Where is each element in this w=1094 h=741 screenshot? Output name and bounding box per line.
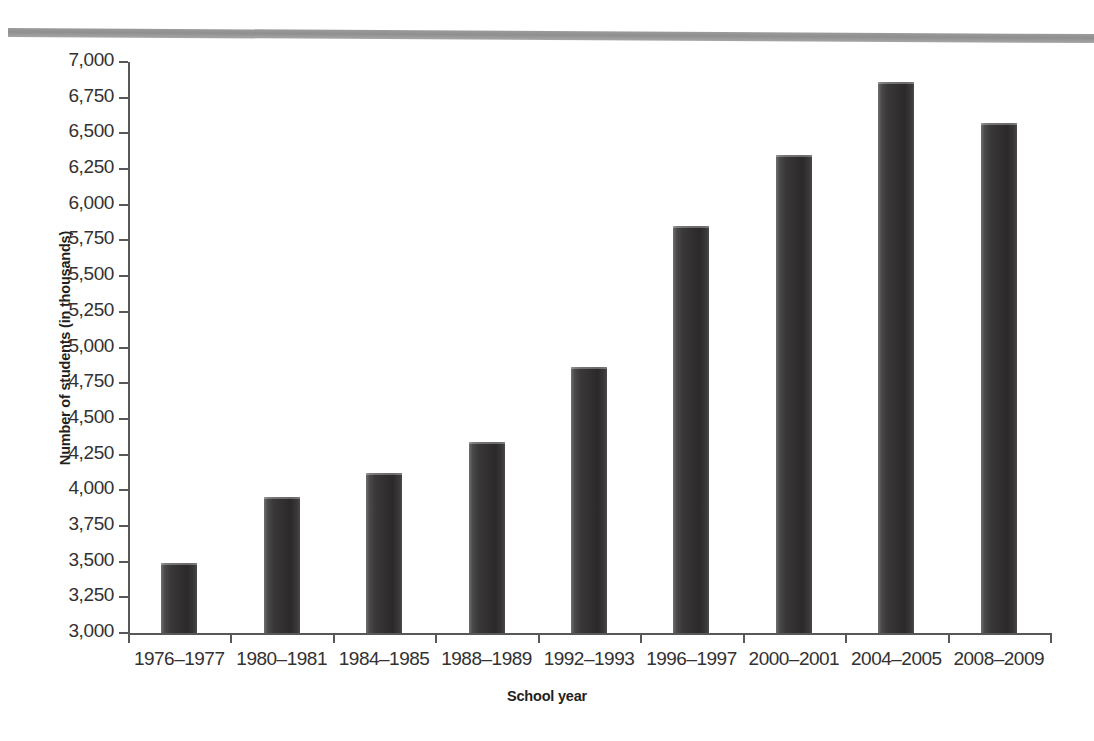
bar bbox=[571, 367, 607, 633]
y-axis-tick bbox=[119, 525, 128, 527]
x-axis-tick bbox=[845, 633, 847, 643]
y-axis-tick bbox=[119, 97, 128, 99]
x-axis-category-label: 1996–1997 bbox=[640, 648, 742, 670]
x-axis-category-label: 1988–1989 bbox=[435, 648, 537, 670]
x-axis-title: School year bbox=[0, 688, 1094, 704]
y-axis-tick-label: 3,250 bbox=[0, 584, 114, 606]
x-axis-tick bbox=[230, 633, 232, 643]
x-axis-category-label: 1976–1977 bbox=[128, 648, 230, 670]
x-axis-tick bbox=[333, 633, 335, 643]
y-axis-tick bbox=[119, 561, 128, 563]
y-axis-tick bbox=[119, 489, 128, 491]
y-axis-tick-label: 4,500 bbox=[0, 406, 114, 428]
x-axis-category-label: 1980–1981 bbox=[230, 648, 332, 670]
bar bbox=[469, 442, 505, 633]
y-axis-tick-label: 5,000 bbox=[0, 335, 114, 357]
bar bbox=[673, 226, 709, 633]
x-axis-tick bbox=[128, 633, 130, 643]
y-axis-tick bbox=[119, 632, 128, 634]
y-axis-tick bbox=[119, 347, 128, 349]
x-axis-tick bbox=[743, 633, 745, 643]
y-axis-tick-label: 6,500 bbox=[0, 120, 114, 142]
y-axis-tick-label: 5,500 bbox=[0, 263, 114, 285]
chart-figure: Number of students (in thousands) 7,0006… bbox=[0, 0, 1094, 741]
x-axis-tick bbox=[538, 633, 540, 643]
bar bbox=[161, 563, 197, 633]
y-axis-tick-label: 5,250 bbox=[0, 299, 114, 321]
bar bbox=[366, 473, 402, 633]
y-axis-tick bbox=[119, 454, 128, 456]
y-axis-tick bbox=[119, 275, 128, 277]
y-axis-tick bbox=[119, 168, 128, 170]
top-scan-rule bbox=[8, 28, 1094, 43]
bar bbox=[264, 497, 300, 633]
y-axis-tick-label: 4,750 bbox=[0, 370, 114, 392]
y-axis-tick bbox=[119, 418, 128, 420]
x-axis-tick bbox=[435, 633, 437, 643]
bar bbox=[878, 82, 914, 633]
y-axis-tick-label: 6,750 bbox=[0, 85, 114, 107]
y-axis-tick bbox=[119, 61, 128, 63]
y-axis-tick bbox=[119, 596, 128, 598]
x-axis-line bbox=[128, 633, 1050, 635]
plot-area: 7,0006,7506,5006,2506,0005,7505,5005,250… bbox=[128, 62, 1050, 635]
y-axis-tick-label: 3,000 bbox=[0, 620, 114, 642]
y-axis-tick-label: 3,750 bbox=[0, 513, 114, 535]
x-axis-category-label: 2004–2005 bbox=[845, 648, 947, 670]
x-axis-tick bbox=[948, 633, 950, 643]
y-axis-line bbox=[128, 62, 130, 635]
x-axis-category-label: 2000–2001 bbox=[743, 648, 845, 670]
x-axis-category-label: 1992–1993 bbox=[538, 648, 640, 670]
x-axis-category-label: 2008–2009 bbox=[948, 648, 1050, 670]
y-axis-tick bbox=[119, 311, 128, 313]
x-axis-tick bbox=[1050, 633, 1052, 643]
y-axis-tick-label: 4,250 bbox=[0, 442, 114, 464]
y-axis-tick-label: 6,000 bbox=[0, 192, 114, 214]
y-axis-tick bbox=[119, 382, 128, 384]
x-axis-tick bbox=[640, 633, 642, 643]
y-axis-tick-label: 7,000 bbox=[0, 49, 114, 71]
y-axis-tick-label: 3,500 bbox=[0, 549, 114, 571]
y-axis-tick bbox=[119, 132, 128, 134]
y-axis-tick-label: 6,250 bbox=[0, 156, 114, 178]
x-axis-category-label: 1984–1985 bbox=[333, 648, 435, 670]
y-axis-tick bbox=[119, 239, 128, 241]
bar bbox=[981, 123, 1017, 633]
y-axis-tick bbox=[119, 204, 128, 206]
y-axis-tick-label: 5,750 bbox=[0, 227, 114, 249]
bar bbox=[776, 155, 812, 633]
y-axis-tick-label: 4,000 bbox=[0, 477, 114, 499]
